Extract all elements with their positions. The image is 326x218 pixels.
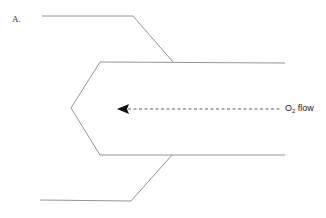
panel-label: A.: [12, 14, 21, 24]
flow-diagram: [0, 0, 326, 218]
flow-species: O: [285, 103, 292, 113]
flow-label: O2 flow: [285, 103, 314, 114]
inner-channel: [71, 62, 285, 155]
flow-arrowhead-icon: [117, 104, 129, 114]
flow-suffix: flow: [295, 103, 314, 113]
outer-bottom-wall: [40, 155, 172, 201]
outer-top-wall: [42, 16, 173, 62]
